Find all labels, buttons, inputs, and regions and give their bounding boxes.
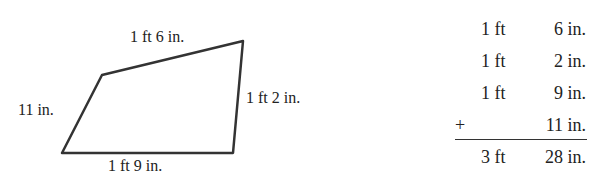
inches-value: 2 in. [554,46,586,76]
total-feet: 3 ft [481,142,506,172]
plus-sign: + [455,110,465,140]
inches-value: 6 in. [554,14,586,44]
inches-value: 9 in. [554,78,586,108]
addend-row: + 11 in. [448,110,588,142]
side-label-right: 1 ft 2 in. [246,89,300,107]
total-row: 3 ft 28 in. [448,142,588,174]
feet-value: 1 ft [481,46,506,76]
addend-row: 1 ft 6 in. [448,14,588,46]
feet-value: 1 ft [481,14,506,44]
side-label-bottom: 1 ft 9 in. [108,157,162,175]
inches-value: 11 in. [546,110,586,140]
side-label-top: 1 ft 6 in. [130,28,184,46]
feet-value: 1 ft [481,78,506,108]
addition-problem: 1 ft 6 in. 1 ft 2 in. 1 ft 9 in. + 11 in… [448,14,588,174]
quadrilateral-shape [62,41,243,153]
sum-rule-line [455,139,587,140]
side-label-left: 11 in. [18,101,54,119]
addend-row: 1 ft 9 in. [448,78,588,110]
addend-row: 1 ft 2 in. [448,46,588,78]
total-inches: 28 in. [545,142,586,172]
